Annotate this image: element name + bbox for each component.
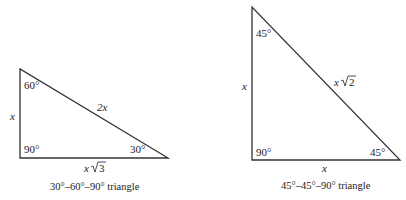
svg-text:x: x — [83, 162, 89, 174]
triangles-diagram: 60° 90° 30° x 2x x 3 30°–60°–90° triangl… — [0, 0, 406, 200]
triangle-45-45-90: 45° 90° 45° x x x 2 45°–45°–90° triangle — [241, 7, 400, 191]
angle-90-label: 90° — [24, 143, 39, 155]
angle-45-top-label: 45° — [256, 27, 271, 39]
short-leg-label: x — [9, 110, 15, 122]
triangle-30-60-90: 60° 90° 30° x 2x x 3 30°–60°–90° triangl… — [9, 69, 168, 192]
triangle-30-60-90-shape — [20, 69, 168, 158]
svg-text:2: 2 — [349, 76, 355, 88]
triangle-45-45-90-shape — [252, 7, 400, 160]
caption-45-45-90: 45°–45°–90° triangle — [281, 180, 371, 191]
svg-text:x: x — [333, 76, 339, 88]
hypotenuse-label: 2x — [97, 101, 108, 113]
angle-45-bottom-label: 45° — [370, 146, 385, 158]
angle-90-label: 90° — [256, 146, 271, 158]
angle-60-label: 60° — [24, 79, 39, 91]
horizontal-leg-label: x — [321, 162, 327, 174]
caption-30-60-90: 30°–60°–90° triangle — [50, 181, 140, 192]
svg-text:3: 3 — [99, 162, 105, 174]
long-leg-label: x 3 — [83, 162, 106, 174]
hypotenuse-label: x 2 — [333, 76, 356, 88]
vertical-leg-label: x — [241, 80, 247, 92]
angle-30-label: 30° — [130, 143, 145, 155]
